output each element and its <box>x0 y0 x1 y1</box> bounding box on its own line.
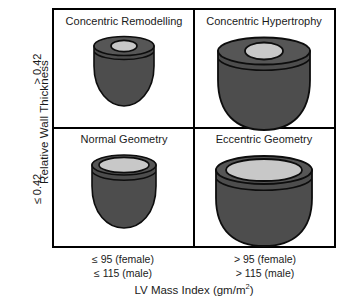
quadrant-label-concentric-remodelling: Concentric Remodelling <box>66 15 183 28</box>
x-axis-tick-right: > 95 (female) > 115 (male) <box>194 252 336 280</box>
x-axis-tick-labels: ≤ 95 (female) ≤ 115 (male) > 95 (female)… <box>52 252 336 280</box>
quadrant-concentric-hypertrophy: Concentric Hypertrophy <box>194 10 334 128</box>
x-axis-tick-right-line2: > 115 (male) <box>194 266 336 280</box>
quadrant-label-normal-geometry: Normal Geometry <box>81 133 168 146</box>
quadrant-label-concentric-hypertrophy: Concentric Hypertrophy <box>206 15 322 28</box>
x-axis-tick-left: ≤ 95 (female) ≤ 115 (male) <box>52 252 194 280</box>
y-axis-tick-lower: ≤ 0.42 <box>31 149 43 229</box>
x-axis-title: LV Mass Index (gm/m2) <box>52 284 336 296</box>
quadrant-normal-geometry: Normal Geometry <box>54 128 194 246</box>
ventricle-illustration-concentric-hypertrophy <box>194 28 334 134</box>
ventricle-illustration-normal-geometry <box>54 146 194 246</box>
x-axis-tick-left-line1: ≤ 95 (female) <box>52 252 194 266</box>
lv-geometry-diagram: Relative Wall Thickness > 0.42 ≤ 0.42 Co… <box>0 0 344 302</box>
y-axis-tick-upper: > 0.42 <box>31 29 43 109</box>
ventricle-illustration-concentric-remodelling <box>54 28 194 128</box>
x-axis-title-main: LV Mass Index (gm/m <box>134 284 245 296</box>
x-axis-title-close: ) <box>250 284 254 296</box>
plot-frame: Concentric Remodelling <box>52 8 336 248</box>
x-axis-tick-left-line2: ≤ 115 (male) <box>52 266 194 280</box>
quadrant-label-eccentric-geometry: Eccentric Geometry <box>216 133 313 146</box>
quadrant-eccentric-geometry: Eccentric Geometry <box>194 128 334 246</box>
x-axis-tick-right-line1: > 95 (female) <box>194 252 336 266</box>
ventricle-illustration-eccentric-geometry <box>194 146 334 250</box>
quadrant-concentric-remodelling: Concentric Remodelling <box>54 10 194 128</box>
